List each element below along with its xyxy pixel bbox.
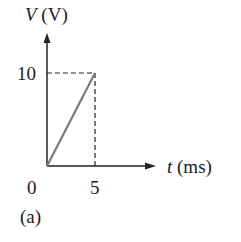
x-axis-arrow-icon — [145, 163, 156, 170]
y-tick-10: 10 — [17, 64, 36, 83]
y-axis-arrow-icon — [44, 33, 51, 43]
x-tick-0: 0 — [27, 178, 37, 197]
figure-caption: (a) — [20, 207, 41, 226]
y-axis-label: V (V) — [25, 5, 68, 24]
x-axis-label: t (ms) — [167, 157, 212, 176]
voltage-ramp-line — [47, 73, 95, 166]
x-tick-5: 5 — [90, 178, 100, 197]
